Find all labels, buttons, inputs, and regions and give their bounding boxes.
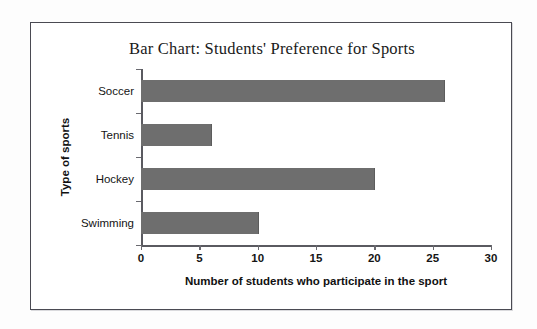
- x-axis-tick: [491, 245, 492, 250]
- bar-tennis[interactable]: [141, 124, 212, 145]
- page-background: Bar Chart: Students' Preference for Spor…: [0, 0, 537, 329]
- bar-swimming[interactable]: [141, 212, 259, 233]
- bar-band: Tennis: [141, 113, 491, 157]
- x-axis-tick: [316, 245, 317, 250]
- y-axis-category-label: Tennis: [101, 129, 134, 141]
- x-axis-tick-label: 20: [368, 252, 381, 264]
- x-axis-tick: [374, 245, 375, 250]
- bar-hockey[interactable]: [141, 168, 375, 189]
- bar-soccer[interactable]: [141, 80, 445, 101]
- chart-title: Bar Chart: Students' Preference for Spor…: [31, 39, 513, 59]
- x-axis-tick-label: 5: [196, 252, 202, 264]
- y-axis-category-label: Hockey: [96, 173, 134, 185]
- y-axis-title: Type of sports: [59, 69, 75, 245]
- chart-figure-frame: Bar Chart: Students' Preference for Spor…: [30, 22, 512, 310]
- x-axis-tick-label: 30: [485, 252, 498, 264]
- x-axis-tick: [258, 245, 259, 250]
- plot-area: 051015202530 SoccerTennisHockeySwimming …: [141, 69, 491, 245]
- x-axis-tick: [141, 245, 142, 250]
- bar-band: Swimming: [141, 201, 491, 245]
- bar-band: Soccer: [141, 69, 491, 113]
- x-axis-tick-label: 15: [310, 252, 323, 264]
- x-axis-title: Number of students who participate in th…: [141, 275, 491, 287]
- x-axis-tick-label: 0: [138, 252, 144, 264]
- x-axis-tick: [199, 245, 200, 250]
- x-axis-tick-label: 10: [251, 252, 264, 264]
- y-axis-category-label: Swimming: [81, 217, 134, 229]
- y-axis-category-label: Soccer: [98, 85, 134, 97]
- x-axis-tick-label: 25: [426, 252, 439, 264]
- x-axis-tick: [433, 245, 434, 250]
- bar-band: Hockey: [141, 157, 491, 201]
